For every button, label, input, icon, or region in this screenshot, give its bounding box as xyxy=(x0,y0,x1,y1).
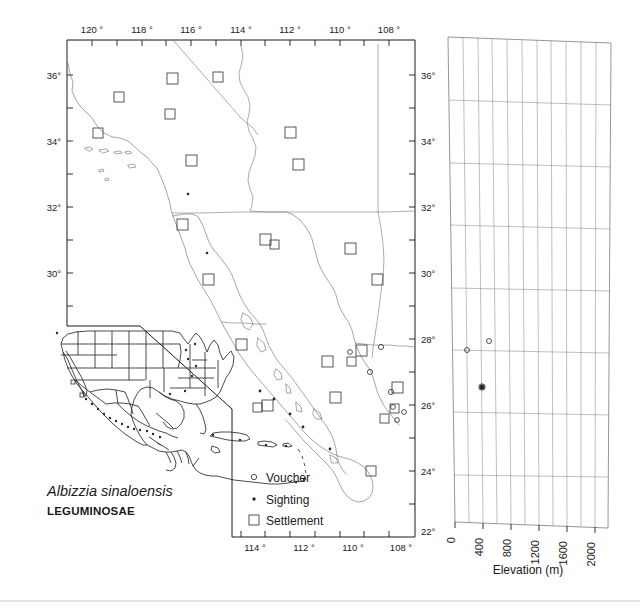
map-right-ticks xyxy=(409,75,415,504)
inset-occurrence-marker xyxy=(191,375,193,377)
map-right-tick-label: 24° xyxy=(421,466,436,477)
inset-map xyxy=(56,331,306,484)
inset-occurrence-marker xyxy=(127,426,129,428)
inset-occurrence-marker xyxy=(265,444,267,446)
mainland-mexico-coastline xyxy=(300,220,399,425)
map-right-tick-label: 30° xyxy=(421,268,436,279)
sighting-marker xyxy=(329,448,332,451)
map-bottom-ticks xyxy=(241,531,389,537)
california-nevada-border xyxy=(173,40,241,118)
california-coastline xyxy=(68,63,173,216)
elevation-tick-label: 0 xyxy=(445,537,457,543)
map-left-tick-label: 36° xyxy=(47,70,62,81)
settlement-marker xyxy=(262,400,273,411)
baja-east-coastline xyxy=(199,218,346,474)
map-top-tick-label: 116 ° xyxy=(180,24,202,35)
settlement-marker xyxy=(253,403,262,412)
voucher-marker xyxy=(391,405,396,410)
inset-occurrence-marker xyxy=(169,393,171,395)
channel-islands xyxy=(85,147,136,181)
map-left-ticks xyxy=(67,75,73,306)
map-bottom-tick-label: 114 ° xyxy=(244,542,266,553)
inset-occurrence-marker xyxy=(295,481,297,483)
settlement-marker xyxy=(236,339,247,350)
us-mexico-border xyxy=(172,211,415,213)
settlement-marker xyxy=(345,243,356,254)
inset-occurrence-marker xyxy=(91,403,93,405)
map-bottom-tick-label: 108 ° xyxy=(390,542,412,553)
figure-canvas: 120 ° 118 ° 116 ° 114 ° 112 ° 110 ° 108 … xyxy=(0,0,640,610)
inset-occurrence-marker xyxy=(195,365,197,367)
inset-occurrence-marker xyxy=(115,420,117,422)
map-right-tick-label: 22° xyxy=(421,526,436,537)
elevation-tick-label: 400 xyxy=(473,538,485,556)
settlement-marker xyxy=(372,274,383,285)
inset-occurrence-marker xyxy=(139,429,141,431)
voucher-marker xyxy=(388,389,393,394)
map-bottom-tick-label: 110 ° xyxy=(342,542,364,553)
sighting-marker xyxy=(187,193,190,196)
elevation-tick-label: 800 xyxy=(501,539,513,557)
legend-settlement-label: Settlement xyxy=(266,514,324,528)
elevation-frame xyxy=(448,37,611,528)
map-right-tick-label: 26° xyxy=(421,400,436,411)
legend: Voucher Sighting Settlement xyxy=(249,471,324,528)
legend-settlement-icon xyxy=(249,515,259,525)
settlement-marker xyxy=(380,414,389,423)
inset-occurrence-marker xyxy=(97,408,99,410)
inset-occurrence-marker xyxy=(85,398,87,400)
elevation-panel: 0 400 800 1200 1600 2000 Elevation (m) xyxy=(445,37,611,577)
inset-continent-outline xyxy=(61,331,306,484)
settlement-marker xyxy=(356,345,367,356)
settlement-marker xyxy=(322,356,333,367)
settlement-marker xyxy=(186,155,197,166)
elevation-tick-label: 1200 xyxy=(529,540,541,564)
elevation-horizontal-gridlines xyxy=(449,100,611,477)
sighting-marker xyxy=(302,426,305,429)
voucher-marker xyxy=(348,350,353,355)
sighting-marker xyxy=(273,398,276,401)
inset-occurrence-marker xyxy=(303,479,305,481)
inset-occurrence-marker xyxy=(184,390,186,392)
elevation-data-points xyxy=(465,339,492,391)
map-right-tick-label: 34° xyxy=(421,136,436,147)
map-right-tick-label: 28° xyxy=(421,334,436,345)
map-left-tick-label: 32° xyxy=(47,202,62,213)
voucher-marker xyxy=(402,410,407,415)
map-top-tick-label: 108 ° xyxy=(378,24,400,35)
inset-occurrence-marker xyxy=(159,436,161,438)
inset-occurrence-marker xyxy=(185,349,187,351)
family-name: LEGUMINOSAE xyxy=(47,505,135,517)
settlement-marker xyxy=(114,92,124,102)
elevation-tick-label: 2000 xyxy=(585,542,597,566)
settlement-marker xyxy=(330,392,341,403)
legend-voucher-icon xyxy=(251,474,256,479)
settlement-marker xyxy=(177,219,188,230)
inset-occurrence-marker xyxy=(56,332,58,334)
inset-occurrence-marker xyxy=(152,433,154,435)
map-top-ticks xyxy=(92,40,389,46)
settlement-marker xyxy=(93,128,103,138)
inset-occurrence-marker xyxy=(146,430,148,432)
sighting-marker xyxy=(259,390,262,393)
map-frame-outline xyxy=(67,40,415,537)
elevation-sighting-point xyxy=(479,384,484,389)
legend-sighting-label: Sighting xyxy=(266,493,309,507)
map-geography xyxy=(67,40,415,502)
settlement-markers xyxy=(93,72,403,476)
map-bottom-tick-label: 112 ° xyxy=(293,542,315,553)
map-top-tick-label: 114 ° xyxy=(230,24,252,35)
gulf-islands xyxy=(241,313,338,463)
elevation-tick-label: 1600 xyxy=(557,541,569,565)
settlement-marker xyxy=(203,274,214,285)
settlement-marker xyxy=(167,73,178,84)
settlement-marker xyxy=(213,72,223,82)
inset-occurrence-marker xyxy=(121,423,123,425)
inset-state-boundaries xyxy=(61,331,218,466)
map-top-tick-label: 110 ° xyxy=(329,24,351,35)
settlement-marker xyxy=(285,127,296,138)
colorado-delta-coastline xyxy=(173,213,300,220)
baja-norte-sur-border xyxy=(222,322,266,324)
elevation-voucher-point xyxy=(487,339,492,344)
inset-occurrence-marker xyxy=(239,439,241,441)
